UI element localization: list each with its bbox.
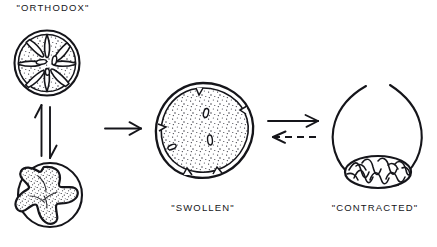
label-contracted: "CONTRACTED" — [316, 202, 434, 213]
swollen-mitochondrion — [156, 83, 253, 178]
condensed-mitochondrion — [15, 163, 82, 227]
arrow-orthodox-to-swollen — [105, 122, 141, 135]
contracted-mitochondrion — [333, 85, 422, 188]
label-orthodox: "ORTHODOX" — [0, 2, 106, 13]
orthodox-mitochondrion — [15, 31, 80, 96]
mitochondria-conformation-figure: "ORTHODOX" "SWOLLEN" "CONTRACTED" — [0, 0, 437, 247]
equilibrium-arrow-vertical — [35, 105, 57, 158]
label-swollen: "SWOLLEN" — [148, 202, 258, 213]
arrow-swollen-to-contracted — [268, 115, 318, 127]
arrow-contracted-to-swollen-dashed — [273, 132, 320, 143]
